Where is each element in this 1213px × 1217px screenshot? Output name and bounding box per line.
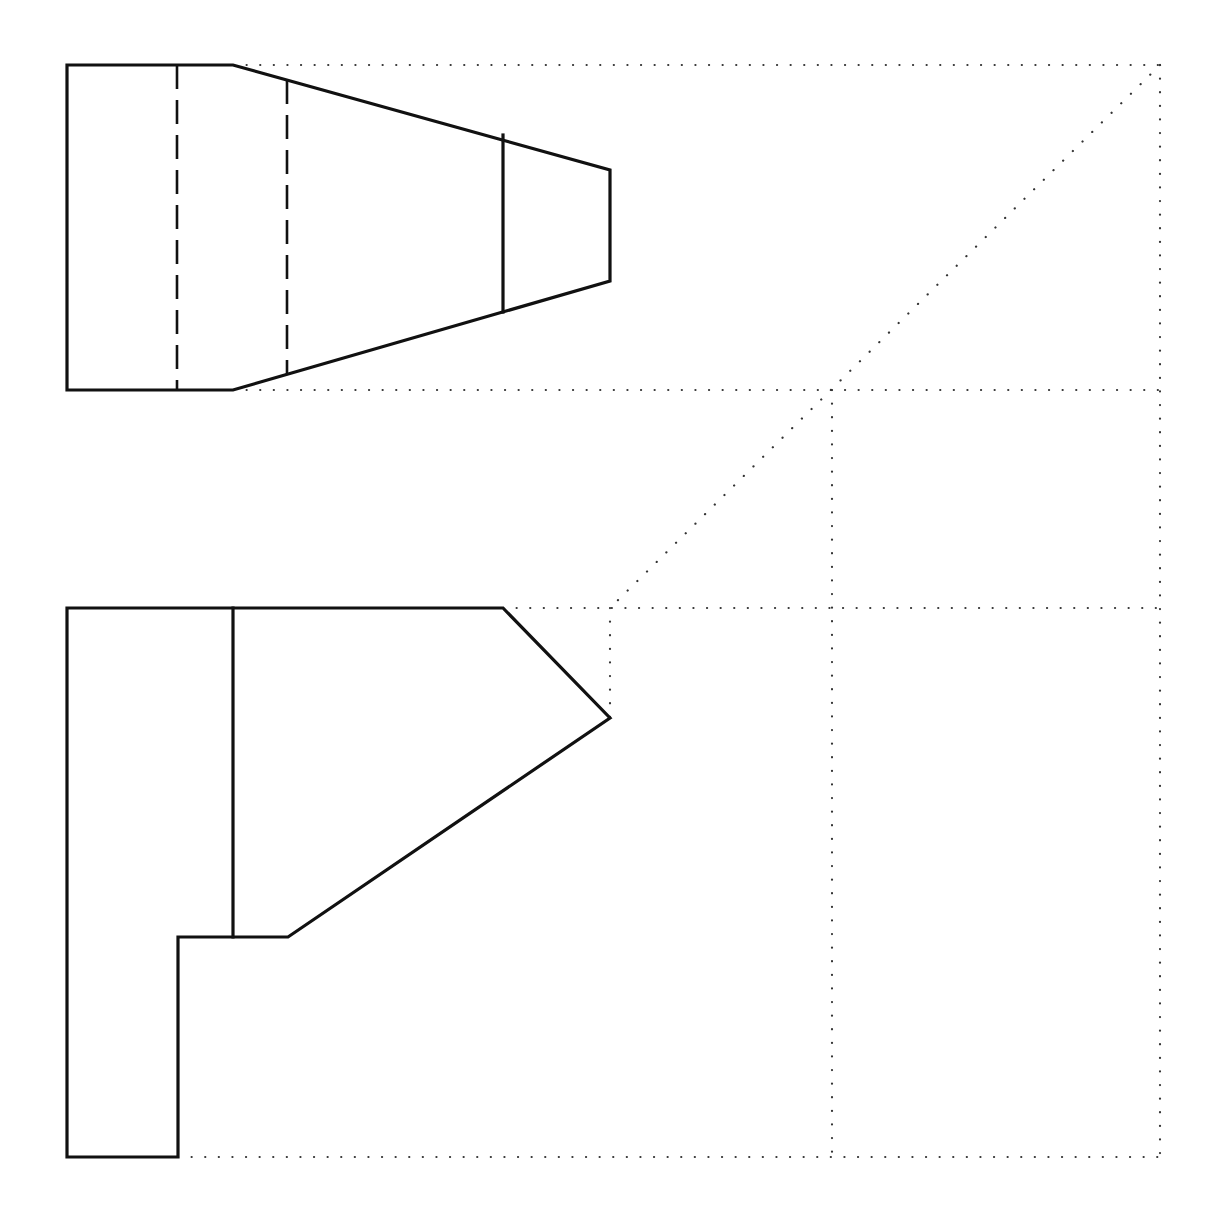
- construction-lines: [178, 65, 1160, 1157]
- projection-drawing: [0, 0, 1213, 1217]
- top-view-outline: [67, 65, 610, 390]
- top-view: [67, 65, 610, 390]
- front-view: [67, 608, 610, 1157]
- front-view-outline: [67, 608, 610, 1157]
- miter-line-45deg: [610, 65, 1160, 608]
